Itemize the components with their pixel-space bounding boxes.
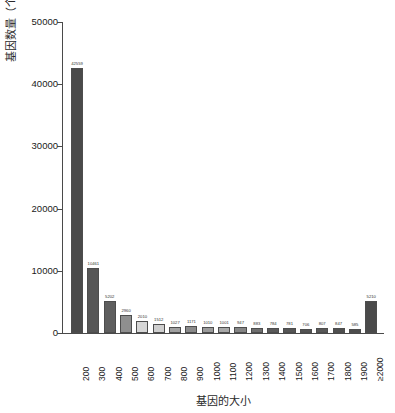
y-tick-mark (57, 271, 62, 272)
bar[interactable] (349, 329, 361, 333)
bar-slot[interactable]: 1027 (169, 22, 181, 333)
x-tick-label: 300 (97, 367, 107, 381)
bar-slot[interactable]: 784 (267, 22, 279, 333)
bar-chart: 基因数量（个） 01000020000300004000050000 42559… (0, 0, 395, 413)
x-axis-tick-labels: 2003004005006007008009001000110012001300… (62, 337, 384, 385)
bar[interactable] (87, 268, 99, 333)
bar-slot[interactable]: 2960 (120, 22, 132, 333)
bar[interactable] (251, 328, 263, 333)
bar[interactable] (218, 327, 230, 333)
y-tick-mark (57, 22, 62, 23)
x-tick-label: 1800 (343, 362, 353, 381)
x-tick-label: 1500 (294, 362, 304, 381)
bar-slot[interactable]: 847 (333, 22, 345, 333)
y-tick-label: 30000 (12, 141, 58, 151)
y-tick-label: 10000 (12, 266, 58, 276)
y-tick-label: 0 (12, 328, 58, 338)
bar[interactable] (202, 327, 214, 333)
bar-slot[interactable]: 42559 (71, 22, 83, 333)
bar-slot[interactable]: 5202 (104, 22, 116, 333)
bar[interactable] (267, 328, 279, 333)
bar[interactable] (153, 324, 165, 333)
bar[interactable] (234, 327, 246, 333)
x-tick-label: 1000 (212, 362, 222, 381)
bar-slot[interactable]: 1001 (218, 22, 230, 333)
x-tick-label: 700 (163, 367, 173, 381)
y-axis-tick-labels: 01000020000300004000050000 (8, 0, 58, 413)
y-tick-mark (57, 333, 62, 334)
y-tick-mark (57, 84, 62, 85)
bar[interactable] (136, 321, 148, 334)
x-tick-label: 500 (130, 367, 140, 381)
bar[interactable] (283, 328, 295, 333)
bar-slot[interactable]: 781 (283, 22, 295, 333)
x-tick-label: 600 (146, 367, 156, 381)
bar-slot[interactable]: 807 (316, 22, 328, 333)
bar[interactable] (316, 328, 328, 333)
bar-slot[interactable]: 10461 (87, 22, 99, 333)
x-tick-label: ≥2000 (375, 357, 385, 381)
x-tick-label: 1400 (277, 362, 287, 381)
y-tick-label: 20000 (12, 204, 58, 214)
bars-layer: 4255910461520229602010151210271171101010… (62, 22, 384, 333)
bar-slot[interactable]: 947 (234, 22, 246, 333)
bar-slot[interactable]: 585 (349, 22, 361, 333)
bar-slot[interactable]: 1010 (202, 22, 214, 333)
bar[interactable] (185, 326, 197, 333)
bar[interactable] (71, 68, 83, 333)
bar-slot[interactable]: 883 (251, 22, 263, 333)
bar-slot[interactable]: 2010 (136, 22, 148, 333)
x-tick-label: 200 (81, 367, 91, 381)
y-tick-label: 40000 (12, 79, 58, 89)
x-tick-label: 400 (114, 367, 124, 381)
x-tick-label: 1900 (359, 362, 369, 381)
x-axis-title: 基因的大小 (62, 392, 384, 408)
x-tick-label: 900 (195, 367, 205, 381)
x-tick-label: 1300 (261, 362, 271, 381)
bar-value-label: 5210 (357, 294, 385, 299)
bar[interactable] (333, 328, 345, 333)
bar-slot[interactable]: 5210 (365, 22, 377, 333)
bar[interactable] (169, 327, 181, 333)
bar-slot[interactable]: 1512 (153, 22, 165, 333)
x-tick-label: 1600 (310, 362, 320, 381)
x-tick-label: 1700 (326, 362, 336, 381)
y-tick-mark (57, 209, 62, 210)
y-tick-label: 50000 (12, 17, 58, 27)
bar-slot[interactable]: 706 (300, 22, 312, 333)
bar[interactable] (365, 301, 377, 333)
x-tick-label: 1200 (244, 362, 254, 381)
y-tick-mark (57, 146, 62, 147)
bar[interactable] (300, 329, 312, 333)
x-axis-line (62, 333, 384, 334)
bar-slot[interactable]: 1171 (185, 22, 197, 333)
bar[interactable] (104, 301, 116, 333)
x-tick-label: 1100 (228, 363, 238, 381)
x-tick-label: 800 (179, 367, 189, 381)
